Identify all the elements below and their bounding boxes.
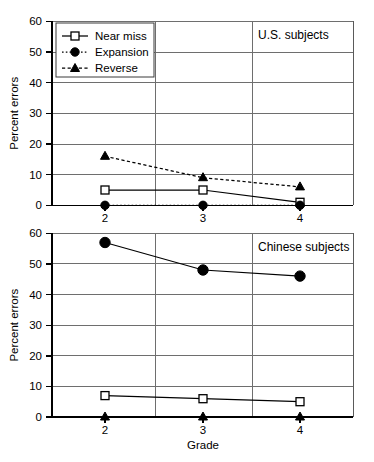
- bottom-series-near-miss: [101, 392, 304, 406]
- legend-item-near-miss[interactable]: Near miss: [62, 30, 147, 42]
- bottom-xtick-2: 2: [102, 424, 108, 436]
- top-ytick-0: 0: [36, 199, 42, 211]
- bottom-ytick-0: 0: [36, 411, 42, 423]
- bottom-y-axis-title: Percent errors: [8, 289, 20, 362]
- legend-open-square-icon: [71, 32, 79, 40]
- bottom-xtick-4: 4: [297, 424, 304, 436]
- bottom-ytick-10: 10: [29, 380, 42, 392]
- top-xtick-2: 2: [102, 212, 108, 224]
- top-xtick-4: 4: [297, 212, 304, 224]
- legend-filled-circle-icon: [71, 48, 79, 56]
- bottom-ytick-40: 40: [29, 289, 42, 301]
- top-ytick-50: 50: [29, 46, 42, 58]
- top-ytick-30: 30: [29, 107, 42, 119]
- x-axis-title: Grade: [187, 439, 219, 451]
- figure-container: 0 10 20 30 40 50 60 Percent errors 2 3 4: [0, 0, 374, 462]
- legend-item-expansion[interactable]: Expansion: [62, 46, 149, 58]
- top-x-tick-labels: 2 3 4: [102, 212, 304, 224]
- top-ytick-60: 60: [29, 15, 42, 27]
- legend-label-near-miss: Near miss: [95, 30, 147, 42]
- legend: Near miss Expansion Reverse: [56, 23, 154, 77]
- bottom-ytick-20: 20: [29, 350, 42, 362]
- legend-label-expansion: Expansion: [95, 46, 149, 58]
- bottom-ytick-50: 50: [29, 258, 42, 270]
- panel-bottom: 0 10 20 30 40 50 60 Percent errors 2 3 4…: [8, 227, 353, 451]
- top-ytick-20: 20: [29, 138, 42, 150]
- top-y-tick-labels: 0 10 20 30 40 50 60: [29, 15, 42, 211]
- bottom-y-tick-labels: 0 10 20 30 40 50 60: [29, 227, 42, 423]
- bottom-panel-title: Chinese subjects: [258, 240, 349, 254]
- bottom-xtick-3: 3: [200, 424, 206, 436]
- bottom-y-ticks: [46, 233, 52, 417]
- top-xtick-3: 3: [200, 212, 206, 224]
- top-panel-title: U.S. subjects: [258, 28, 329, 42]
- bottom-ytick-30: 30: [29, 319, 42, 331]
- top-ytick-40: 40: [29, 77, 42, 89]
- two-panel-line-chart: 0 10 20 30 40 50 60 Percent errors 2 3 4: [0, 0, 374, 462]
- bottom-gridlines-horizontal: [52, 233, 353, 386]
- top-ytick-10: 10: [29, 169, 42, 181]
- legend-label-reverse: Reverse: [95, 62, 138, 74]
- panel-top: 0 10 20 30 40 50 60 Percent errors 2 3 4: [8, 15, 353, 224]
- bottom-ytick-60: 60: [29, 227, 42, 239]
- bottom-series-reverse: [101, 412, 305, 420]
- top-y-ticks: [46, 21, 52, 205]
- top-series-reverse: [101, 151, 305, 190]
- bottom-x-tick-labels: 2 3 4: [102, 424, 304, 436]
- top-y-axis-title: Percent errors: [8, 77, 20, 150]
